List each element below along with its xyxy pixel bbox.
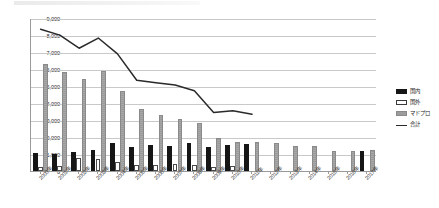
legend-item-goukei: 合計: [396, 119, 439, 130]
bar-madopuro: [159, 115, 164, 171]
black-square-icon: [396, 89, 407, 94]
legend-item-kokugai: 国外: [396, 97, 439, 108]
white-square-icon: [396, 100, 407, 105]
x-axis-tick: [78, 172, 79, 174]
bar-madopuro: [120, 91, 125, 171]
x-axis-tick: [251, 172, 252, 174]
title-strip: [14, 1, 200, 5]
bar-madopuro: [62, 72, 67, 171]
gridline: [31, 19, 376, 20]
bar-kokunai: [187, 143, 192, 171]
legend-label-kokugai: 国外: [410, 99, 420, 106]
legend-item-kokunai: 国内: [396, 86, 439, 97]
x-axis-tick: [97, 172, 98, 174]
x-axis-tick: [59, 172, 60, 174]
gridline: [31, 53, 376, 54]
x-axis-tick: [366, 172, 367, 174]
legend-label-goukei: 合計: [410, 121, 420, 128]
bar-kokunai: [244, 144, 249, 171]
gridline: [31, 70, 376, 71]
bar-madopuro: [178, 119, 183, 171]
bar-madopuro: [101, 71, 106, 171]
bar-kokunai: [110, 143, 115, 171]
bar-madopuro: [82, 79, 87, 171]
x-axis-tick: [290, 172, 291, 174]
x-axis-tick: [174, 172, 175, 174]
plot-area: [30, 19, 376, 172]
chart-legend: 国内 国外 マドプロ 合計: [396, 86, 439, 130]
x-axis-tick: [193, 172, 194, 174]
x-axis-tick: [213, 172, 214, 174]
x-axis-tick: [117, 172, 118, 174]
bar-kokunai: [206, 147, 211, 171]
chart-container: 01,0002,0003,0004,0005,0006,0007,0008,00…: [0, 0, 439, 208]
bar-kokunai: [360, 151, 365, 171]
x-axis-tick: [328, 172, 329, 174]
legend-label-madopuro: マドプロ: [410, 110, 430, 117]
bar-kokunai: [167, 146, 172, 172]
x-axis-tick: [136, 172, 137, 174]
bar-kokunai: [91, 150, 96, 171]
x-axis-tick: [40, 172, 41, 174]
bar-kokunai: [148, 145, 153, 171]
legend-item-madopuro: マドプロ: [396, 108, 439, 119]
gridline: [31, 36, 376, 37]
x-axis-tick: [270, 172, 271, 174]
x-axis-tick: [232, 172, 233, 174]
x-axis-tick: [347, 172, 348, 174]
bar-kokunai: [129, 147, 134, 171]
bar-madopuro: [43, 64, 48, 171]
bar-kokunai: [225, 145, 230, 171]
bar-kokunai: [71, 152, 76, 171]
line-segment-icon: [396, 125, 407, 126]
bar-kokunai: [33, 153, 38, 171]
bar-madopuro: [139, 109, 144, 171]
legend-label-kokunai: 国内: [410, 88, 420, 95]
x-axis-tick: [155, 172, 156, 174]
x-axis-tick: [309, 172, 310, 174]
gray-square-icon: [396, 111, 407, 116]
